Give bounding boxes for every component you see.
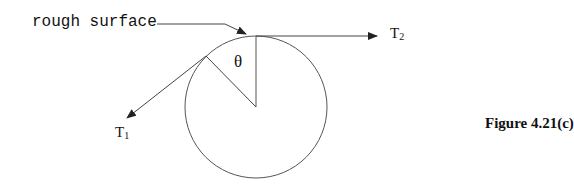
rough-surface-label: rough surface bbox=[32, 13, 157, 31]
t1-arrow bbox=[127, 56, 206, 118]
t2-base: T bbox=[390, 25, 399, 41]
t2-sub: 2 bbox=[399, 31, 404, 42]
surface-leader-arrow bbox=[157, 24, 246, 34]
theta-label: θ bbox=[234, 52, 242, 72]
t1-base: T bbox=[115, 124, 124, 140]
t1-label: T1 bbox=[115, 124, 129, 141]
figure-caption: Figure 4.21(c) bbox=[485, 115, 574, 132]
radius-angled bbox=[206, 56, 256, 107]
t1-sub: 1 bbox=[124, 130, 129, 141]
t2-label: T2 bbox=[390, 25, 404, 42]
